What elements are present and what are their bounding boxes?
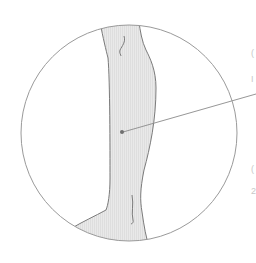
leg-shape (70, 22, 156, 250)
edge-text-fragment: 2 (251, 186, 256, 196)
edge-text-fragment: I (251, 74, 254, 84)
leg-illustration (0, 0, 256, 263)
callout-dot (120, 130, 124, 134)
edge-text-fragment: ( (251, 164, 254, 174)
edge-text-fragment: ( (251, 48, 254, 58)
